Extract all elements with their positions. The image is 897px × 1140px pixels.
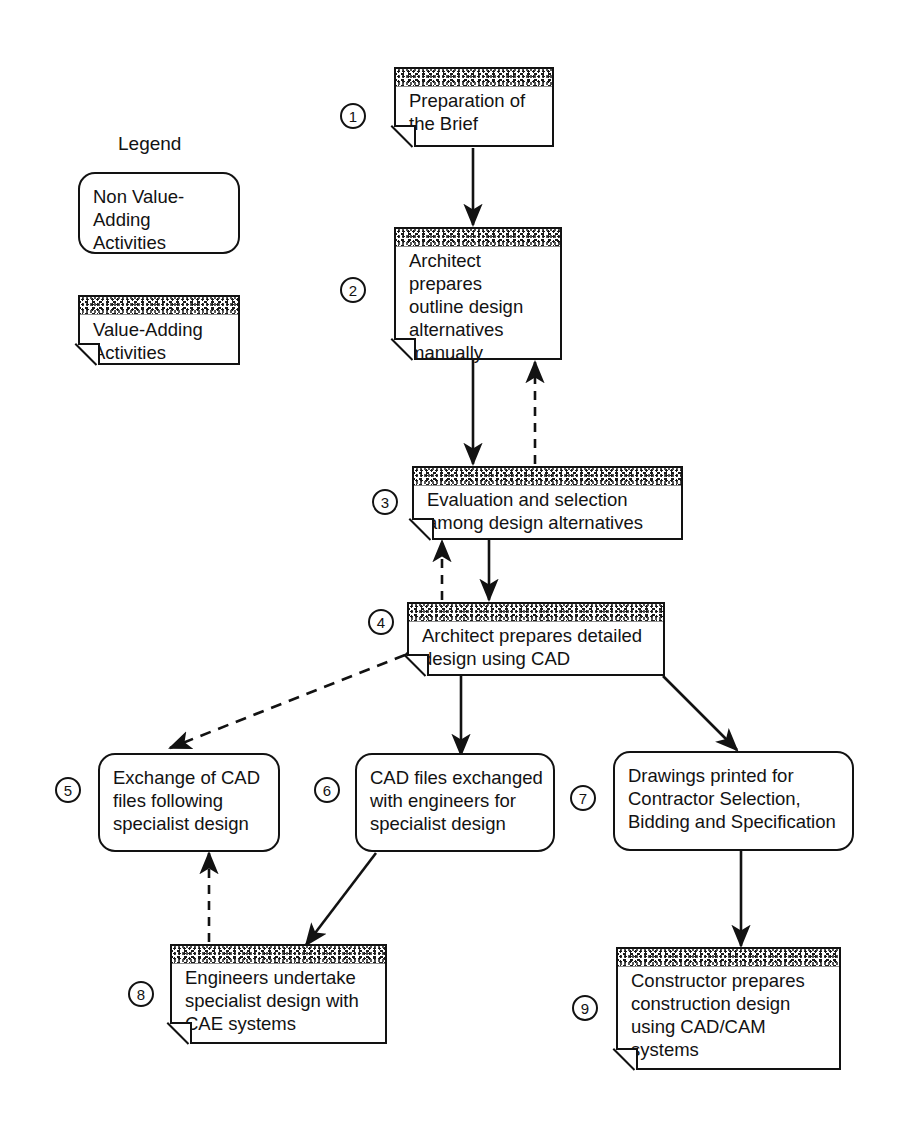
stipple-band-icon <box>396 229 560 247</box>
node-number-9: 9 <box>572 995 598 1021</box>
node-number-3: 3 <box>372 489 398 515</box>
node-8-label: Engineers undertake specialist design wi… <box>185 966 379 1035</box>
edge-4-to-5 <box>170 655 405 748</box>
node-2-label: Architect prepares outline design altern… <box>409 249 554 364</box>
legend-title: Legend <box>118 133 181 155</box>
node-3[interactable]: Evaluation and selection among design al… <box>412 466 683 540</box>
folded-corner-icon <box>78 343 100 365</box>
legend-non-value-adding-label: Non Value- Adding Activities <box>93 185 232 254</box>
node-6-label: CAD files exchanged with engineers for s… <box>370 766 547 835</box>
legend-value-adding-label: Value-Adding Activities <box>93 318 232 364</box>
node-7[interactable]: Drawings printed for Contractor Selectio… <box>613 751 854 851</box>
stipple-band-icon <box>396 69 552 87</box>
node-9-label: Constructor prepares construction design… <box>631 969 833 1061</box>
folded-corner-icon <box>394 125 416 147</box>
node-7-label: Drawings printed for Contractor Selectio… <box>628 764 846 833</box>
node-5-label: Exchange of CAD files following speciali… <box>113 766 272 835</box>
node-number-6: 6 <box>314 777 340 803</box>
stipple-band-icon <box>414 468 681 486</box>
node-8[interactable]: Engineers undertake specialist design wi… <box>170 944 387 1044</box>
node-number-7: 7 <box>570 785 596 811</box>
legend-non-value-adding-sample: Non Value- Adding Activities <box>78 172 240 254</box>
node-number-2: 2 <box>340 277 366 303</box>
node-6[interactable]: CAD files exchanged with engineers for s… <box>355 753 555 852</box>
node-3-label: Evaluation and selection among design al… <box>427 488 675 534</box>
node-4-label: Architect prepares detailed design using… <box>422 624 657 670</box>
node-5[interactable]: Exchange of CAD files following speciali… <box>98 753 280 852</box>
edge-4-to-7 <box>663 676 737 750</box>
folded-corner-icon <box>412 518 434 540</box>
flowchart-canvas: Legend Non Value- Adding Activities Valu… <box>0 0 897 1140</box>
node-2[interactable]: Architect prepares outline design altern… <box>394 227 562 360</box>
node-9[interactable]: Constructor prepares construction design… <box>616 947 841 1070</box>
stipple-band-icon <box>618 949 839 967</box>
legend-value-adding-sample: Value-Adding Activities <box>78 295 240 365</box>
folded-corner-icon <box>407 654 429 676</box>
stipple-band-icon <box>172 946 385 964</box>
stipple-band-icon <box>409 604 663 622</box>
node-4[interactable]: Architect prepares detailed design using… <box>407 602 665 676</box>
node-number-5: 5 <box>55 777 81 803</box>
edge-6-to-8 <box>306 853 376 945</box>
folded-corner-icon <box>616 1048 638 1070</box>
stipple-band-icon <box>80 297 238 315</box>
node-number-4: 4 <box>368 609 394 635</box>
node-number-1: 1 <box>340 103 366 129</box>
node-number-8: 8 <box>128 981 154 1007</box>
node-1[interactable]: Preparation of the Brief <box>394 67 554 147</box>
node-1-label: Preparation of the Brief <box>409 89 546 135</box>
folded-corner-icon <box>394 338 416 360</box>
folded-corner-icon <box>170 1022 192 1044</box>
